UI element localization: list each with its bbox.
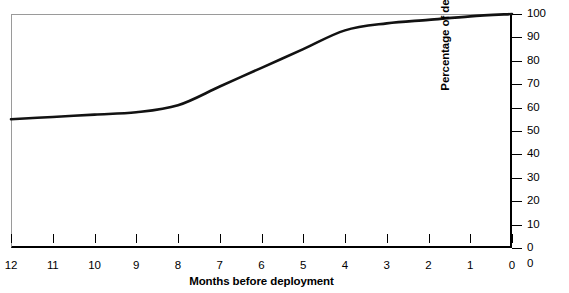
- x-axis-tick-label: 0: [497, 259, 527, 271]
- origin-zero-label: 0: [527, 258, 533, 270]
- x-axis-tick: [387, 234, 388, 243]
- x-axis-tick: [470, 234, 471, 243]
- x-axis-tick-label: 1: [455, 259, 485, 271]
- y-axis-title: Percentage of deployers: [434, 0, 456, 142]
- x-axis-tick: [136, 234, 137, 243]
- y-axis-tick: [512, 131, 522, 132]
- y-axis-tick: [512, 61, 522, 62]
- y-axis-tick: [512, 84, 522, 85]
- y-axis-tick: [512, 37, 522, 38]
- x-axis-tick: [53, 234, 54, 243]
- y-axis-tick: [512, 225, 522, 226]
- y-axis-tick-label: 70: [527, 78, 540, 90]
- x-axis-tick-label: 5: [288, 259, 318, 271]
- y-axis-tick: [512, 178, 522, 179]
- y-axis-tick: [512, 248, 522, 249]
- x-axis-tick: [178, 234, 179, 243]
- x-axis-tick: [220, 234, 221, 243]
- x-axis-tick: [95, 234, 96, 243]
- x-axis-tick-label: 9: [121, 259, 151, 271]
- x-axis-tick-label: 11: [38, 259, 68, 271]
- x-axis-tick: [512, 234, 513, 243]
- y-axis-tick-label: 10: [527, 219, 540, 231]
- x-axis-tick: [429, 234, 430, 243]
- x-axis-tick: [303, 234, 304, 243]
- x-axis-tick-label: 6: [247, 259, 277, 271]
- y-axis-tick-label: 0: [527, 242, 533, 254]
- chart-container: 0102030405060708090100 1211109876543210 …: [0, 0, 569, 293]
- y-axis-tick-label: 90: [527, 31, 540, 43]
- y-axis-tick: [512, 154, 522, 155]
- y-axis-tick-label: 40: [527, 148, 540, 160]
- x-axis-tick-label: 8: [163, 259, 193, 271]
- x-axis-tick-label: 3: [372, 259, 402, 271]
- y-axis-tick-label: 50: [527, 125, 540, 137]
- y-axis-tick-label: 60: [527, 102, 540, 114]
- y-axis-tick-label: 30: [527, 172, 540, 184]
- y-axis-tick-label: 20: [527, 195, 540, 207]
- x-axis-tick: [262, 234, 263, 243]
- y-axis-tick: [512, 14, 522, 15]
- x-axis-tick-label: 10: [80, 259, 110, 271]
- x-axis-tick: [11, 234, 12, 243]
- x-axis-title: Months before deployment: [11, 275, 512, 287]
- y-axis-tick-label: 80: [527, 55, 540, 67]
- y-axis-tick-label: 100: [527, 8, 546, 20]
- y-axis-tick: [512, 108, 522, 109]
- x-axis-tick-label: 2: [414, 259, 444, 271]
- x-axis-tick: [345, 234, 346, 243]
- x-axis-tick-label: 12: [0, 259, 26, 271]
- x-axis-tick-label: 7: [205, 259, 235, 271]
- x-axis-tick-label: 4: [330, 259, 360, 271]
- y-axis-tick: [512, 201, 522, 202]
